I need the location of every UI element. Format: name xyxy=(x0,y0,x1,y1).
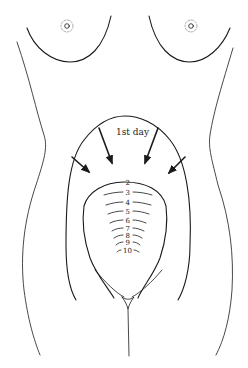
pubic-triangle xyxy=(122,297,134,309)
day-label-5: 5 xyxy=(126,208,130,216)
day-label-3: 3 xyxy=(126,189,130,197)
right-breast-outline xyxy=(149,16,230,62)
right-nipple-icon xyxy=(185,20,197,32)
left-groin-line xyxy=(95,270,124,297)
left-breast-outline xyxy=(27,16,111,62)
left-nipple-icon xyxy=(61,20,73,32)
right-groin-line xyxy=(132,270,162,297)
day-number-labels: 2 3 4 5 6 7 8 9 10 xyxy=(123,179,132,255)
first-day-label: 1st day xyxy=(116,127,150,137)
arrow-icon xyxy=(72,157,89,172)
day-label-6: 6 xyxy=(126,217,131,225)
day-label-9: 9 xyxy=(126,239,130,247)
arrow-icon xyxy=(99,128,112,163)
right-body-outline xyxy=(209,48,233,355)
vulva-line xyxy=(128,309,129,356)
left-body-outline xyxy=(17,42,46,355)
day-label-10: 10 xyxy=(123,247,132,255)
day-label-2: 2 xyxy=(126,179,130,187)
day-label-4: 4 xyxy=(126,199,131,207)
uterine-involution-diagram: 1st day 2 3 4 5 6 7 8 9 10 xyxy=(0,0,248,368)
